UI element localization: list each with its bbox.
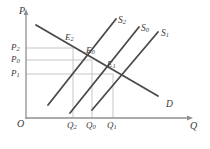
- demand-curve: [36, 25, 158, 96]
- supply-1-label: S1: [161, 29, 169, 39]
- supply-curve-2: [48, 19, 116, 105]
- equilibrium-1-label: E1: [107, 60, 116, 70]
- demand-label: D: [166, 100, 173, 110]
- figure-canvas: [0, 0, 210, 149]
- equilibrium-0-label: E0: [86, 46, 95, 56]
- quantity-tick-q2-sub: 2: [74, 123, 77, 130]
- quantity-tick-q2: Q2: [67, 121, 77, 131]
- equilibrium-2-label: E2: [65, 33, 74, 43]
- price-tick-p2: P2: [11, 43, 20, 53]
- quantity-tick-q0: Q0: [86, 121, 96, 131]
- price-axis-label: P: [19, 6, 25, 16]
- quantity-tick-q1: Q1: [107, 121, 117, 131]
- supply-1-label-sub: 1: [166, 31, 169, 38]
- quantity-tick-q1-sub: 1: [114, 123, 117, 130]
- price-guide-lines: [26, 48, 113, 74]
- supply-demand-figure: P Q O P2 P0 P1 Q2 Q0 Q1 S2 S0 S1 D E2 E0…: [0, 0, 210, 149]
- quantity-tick-q0-sub: 0: [93, 123, 96, 130]
- price-tick-p2-sub: 2: [17, 45, 20, 52]
- origin-label: O: [17, 119, 24, 129]
- supply-0-label: S0: [141, 24, 149, 34]
- price-tick-p1-sub: 1: [17, 71, 20, 78]
- equilibrium-0-label-sub: 0: [92, 48, 95, 55]
- quantity-axis-label: Q: [190, 121, 197, 131]
- supply-curve-0: [70, 27, 139, 113]
- price-tick-p0-sub: 0: [17, 57, 20, 64]
- price-tick-p0: P0: [11, 55, 20, 65]
- supply-2-label-sub: 2: [123, 18, 126, 25]
- equilibrium-1-label-sub: 1: [113, 62, 116, 69]
- supply-2-label: S2: [118, 16, 126, 26]
- equilibrium-2-label-sub: 2: [71, 35, 74, 42]
- demand-label-base: D: [166, 99, 173, 109]
- supply-0-label-sub: 0: [146, 26, 149, 33]
- price-tick-p1: P1: [11, 69, 20, 79]
